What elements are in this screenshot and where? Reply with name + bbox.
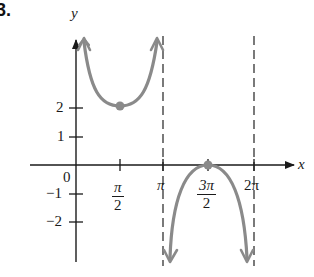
y-tick-label-neg2: −2 (46, 214, 62, 229)
max-point (204, 161, 213, 170)
min-point (116, 102, 125, 111)
y-tick-label-1: 1 (57, 129, 65, 144)
y-tick-label-neg1: −1 (46, 186, 62, 201)
curve-branch-1 (84, 42, 157, 106)
x-tick-label-3pi-over-2: 3π 2 (197, 178, 216, 211)
y-axis-label: y (71, 6, 78, 21)
x-tick-label-pi-over-2: π 2 (112, 180, 124, 213)
x-tick-label-pi: π (157, 178, 165, 193)
origin-label: 0 (63, 170, 71, 185)
x-tick-label-2pi: 2π (244, 178, 259, 193)
x-axis-label: x (298, 157, 305, 172)
graph-plot (0, 0, 314, 277)
y-tick-label-2: 2 (56, 100, 64, 115)
